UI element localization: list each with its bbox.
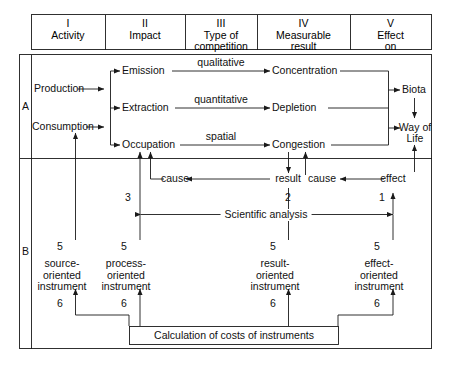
chain-number-3: 3 — [125, 192, 131, 204]
instrument-effect-oriented: effect- oriented instrument — [354, 258, 403, 293]
node-emission: Emission — [122, 65, 165, 77]
node-concentration: Concentration — [272, 65, 337, 77]
column-numeral-5: V — [350, 18, 431, 30]
diagram-canvas: I Activity II Impact III Type of competi… — [0, 0, 449, 365]
column-header-4: IV Measurable result — [257, 18, 350, 53]
node-cause-impact: cause — [161, 173, 189, 185]
column-label-4-line2: result — [257, 41, 350, 53]
column-label-3-line2: competition — [185, 41, 257, 53]
node-result: result — [275, 173, 301, 185]
instrument-number-6-effect: 6 — [374, 298, 380, 310]
node-consumption: Consumption — [32, 121, 94, 133]
column-numeral-2: II — [105, 18, 185, 30]
instrument-effect-line3: instrument — [354, 281, 403, 293]
label-qualitative: qualitative — [197, 57, 244, 69]
column-label-5-line2: on — [350, 41, 431, 53]
node-extraction: Extraction — [122, 102, 169, 114]
node-depletion: Depletion — [272, 102, 316, 114]
instrument-number-6-process: 6 — [121, 298, 127, 310]
chain-number-1: 1 — [379, 192, 385, 204]
label-spatial: spatial — [206, 131, 236, 143]
instrument-result-oriented: result- oriented instrument — [250, 258, 299, 293]
column-numeral-3: III — [185, 18, 257, 30]
instrument-result-line3: instrument — [250, 281, 299, 293]
column-header-3: III Type of competition — [185, 18, 257, 53]
instrument-number-5-effect: 5 — [374, 241, 380, 253]
node-way-of-life-line2: Life — [407, 133, 424, 145]
node-congestion: Congestion — [272, 139, 325, 151]
node-production: Production — [34, 83, 84, 95]
label-scientific-analysis: Scientific analysis — [221, 209, 312, 221]
instrument-process-line3: instrument — [101, 281, 150, 293]
instrument-source-line3: instrument — [37, 281, 86, 293]
instrument-number-6-source: 6 — [57, 298, 63, 310]
instrument-number-5-source: 5 — [57, 241, 63, 253]
instrument-result-line1: result- — [250, 258, 299, 270]
instrument-number-5-result: 5 — [270, 241, 276, 253]
section-label-a: A — [22, 101, 29, 113]
column-header-2: II Impact — [105, 18, 185, 41]
instrument-source-line1: source- — [37, 258, 86, 270]
column-header-1: I Activity — [31, 18, 105, 41]
section-label-b: B — [22, 246, 29, 258]
instrument-process-oriented: process- oriented instrument — [101, 258, 150, 293]
column-numeral-1: I — [31, 18, 105, 30]
node-effect: effect — [380, 173, 406, 185]
calculation-box-label: Calculation of costs of instruments — [154, 330, 314, 342]
column-header-5: V Effect on — [350, 18, 431, 53]
node-biota: Biota — [402, 84, 426, 96]
chain-number-2: 2 — [285, 192, 291, 204]
column-label-2: Impact — [105, 30, 185, 42]
column-label-1: Activity — [31, 30, 105, 42]
instrument-number-6-result: 6 — [270, 298, 276, 310]
label-quantitative: quantitative — [194, 94, 248, 106]
node-occupation: Occupation — [122, 139, 175, 151]
instrument-source-oriented: source- oriented instrument — [37, 258, 86, 293]
instrument-number-5-process: 5 — [121, 241, 127, 253]
instrument-process-line1: process- — [101, 258, 150, 270]
instrument-effect-line1: effect- — [354, 258, 403, 270]
column-numeral-4: IV — [257, 18, 350, 30]
node-cause-result: cause — [308, 173, 336, 185]
